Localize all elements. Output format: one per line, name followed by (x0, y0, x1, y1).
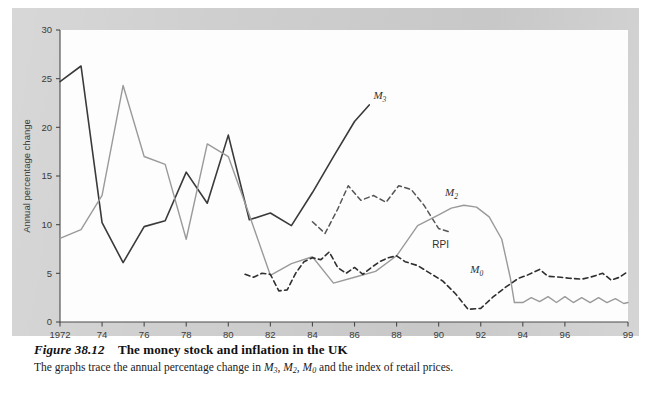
series-label-m0: M0 (469, 263, 483, 278)
x-tick-label: 84 (307, 329, 318, 340)
y-tick-label: 20 (41, 122, 52, 133)
y-tick-label: 10 (41, 219, 52, 230)
x-tick-label: 78 (181, 329, 192, 340)
caption-series-m2: M2 (283, 361, 297, 373)
caption-suffix: and the index of retail prices. (316, 361, 453, 373)
x-tick-label: 82 (265, 329, 276, 340)
y-axis-label: Annual percentage change (21, 119, 32, 233)
series-label-m3: M3 (372, 89, 386, 104)
y-tick-label: 30 (41, 24, 52, 35)
x-tick-label: 76 (139, 329, 150, 340)
series-line-m3 (60, 66, 369, 263)
series-line-m2 (312, 186, 451, 234)
figure-38-12: 0510152025301972747678808284868890929496… (0, 0, 651, 395)
x-tick-label: 1972 (49, 329, 70, 340)
y-tick-label: 25 (41, 73, 52, 84)
x-tick-label: 96 (560, 329, 571, 340)
caption-body: The graphs trace the annual percentage c… (34, 361, 639, 375)
x-tick-label: 88 (391, 329, 402, 340)
series-label-rpi: RPI (432, 239, 449, 250)
x-tick-label: 99 (623, 329, 634, 340)
axes (60, 30, 628, 322)
x-tick-label: 74 (97, 329, 108, 340)
caption-series-m3: M3 (264, 361, 278, 373)
x-tick-label: 92 (475, 329, 486, 340)
caption-series-m0: M0 (303, 361, 317, 373)
x-tick-label: 86 (349, 329, 360, 340)
figure-number: Figure 38.12 (34, 342, 105, 357)
y-tick-label: 0 (47, 316, 52, 327)
x-tick-label: 80 (223, 329, 234, 340)
caption-prefix: The graphs trace the annual percentage c… (34, 361, 264, 373)
y-tick-label: 15 (41, 170, 52, 181)
y-tick-label: 5 (47, 268, 52, 279)
line-chart: 0510152025301972747678808284868890929496… (0, 0, 651, 340)
figure-title: The money stock and inflation in the UK (118, 342, 348, 357)
x-tick-label: 94 (518, 329, 529, 340)
figure-caption: Figure 38.12 The money stock and inflati… (12, 342, 639, 388)
x-tick-label: 90 (433, 329, 444, 340)
series-label-m2: M2 (444, 186, 458, 201)
caption-title: Figure 38.12 The money stock and inflati… (34, 342, 639, 358)
